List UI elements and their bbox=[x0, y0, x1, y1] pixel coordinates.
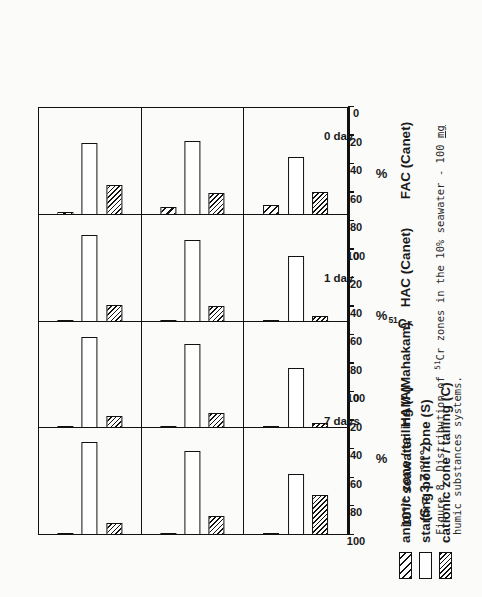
bar-anionic bbox=[160, 427, 176, 428]
panel-1-day-hac-canet bbox=[142, 215, 245, 322]
panel-1-day-ham-mahakam bbox=[142, 321, 245, 428]
axis-tick-label: 60 bbox=[350, 335, 362, 347]
bar-anionic bbox=[263, 533, 279, 534]
bar-anionic bbox=[57, 320, 73, 321]
bar-group bbox=[53, 322, 126, 428]
caption-mid: Cr zones in the 10% seawater - 100 bbox=[434, 138, 446, 360]
bar-cationic bbox=[312, 495, 328, 534]
panel-7-days-hac-canet bbox=[39, 215, 142, 322]
plot-area bbox=[38, 107, 348, 535]
figure-8: anionic zone / tailing (A) starting poin… bbox=[0, 0, 482, 597]
bar-anionic bbox=[263, 205, 279, 215]
bar-group bbox=[53, 216, 126, 322]
bar-cationic bbox=[312, 316, 328, 321]
column-label-line1: HAM (Mahakam) bbox=[398, 322, 413, 427]
axis-tick-label: 60 bbox=[350, 193, 362, 205]
bar-anionic bbox=[160, 533, 176, 534]
column-label-line1: 10°/° seawater bbox=[398, 436, 416, 527]
axis-title-percent: % bbox=[376, 165, 388, 180]
column-label-line1: HAC (Canet) bbox=[398, 228, 413, 308]
bar-starting-point bbox=[184, 451, 200, 534]
axis-tick-label: 40 bbox=[350, 164, 362, 176]
bar-group bbox=[259, 429, 333, 535]
panel-7-days-fac-canet bbox=[39, 108, 142, 215]
bar-starting-point bbox=[184, 344, 200, 427]
bar-anionic bbox=[263, 426, 279, 427]
axis-tick-label: 80 bbox=[350, 221, 362, 233]
bar-group bbox=[259, 108, 333, 215]
bar-cationic bbox=[209, 413, 225, 428]
bar-starting-point bbox=[288, 157, 304, 215]
bar-cationic bbox=[209, 193, 225, 214]
bar-starting-point bbox=[184, 141, 200, 215]
figure-caption: Figure 8. Distribution of 51Cr zones in … bbox=[432, 105, 466, 535]
bar-group bbox=[259, 322, 333, 428]
bar-anionic bbox=[57, 212, 73, 214]
bar-cationic bbox=[106, 416, 122, 428]
bar-group bbox=[156, 429, 229, 535]
column-label-10-seawater: 10°/° seawater(S = 3.7 °/°° ) bbox=[398, 436, 434, 527]
panel-0-day-ham-mahakam bbox=[244, 321, 347, 428]
bar-cationic bbox=[106, 185, 122, 215]
caption-prefix: Figure 8. Distribution of bbox=[434, 370, 446, 535]
bar-cationic bbox=[209, 516, 225, 534]
legend-swatch-starting-point-icon bbox=[419, 552, 432, 579]
column-label-fac-canet-: FAC (Canet) bbox=[398, 122, 413, 199]
axis-title-percent: % bbox=[376, 308, 388, 323]
panel-1-day-fac-canet bbox=[142, 108, 245, 215]
bar-starting-point bbox=[82, 143, 98, 214]
bar-starting-point bbox=[288, 368, 304, 427]
axis-tick-label: 0 bbox=[353, 107, 359, 119]
cr-base: Cr bbox=[398, 317, 412, 331]
panel-grid bbox=[38, 107, 348, 535]
axis-tick-label: 40 bbox=[350, 307, 362, 319]
panel-0-day-hac-canet bbox=[244, 215, 347, 322]
rotated-page-wrapper: anionic zone / tailing (A) starting poin… bbox=[0, 0, 482, 597]
bar-starting-point bbox=[82, 236, 98, 322]
column-label-hac-canet-: HAC (Canet) bbox=[398, 228, 413, 308]
bar-starting-point bbox=[82, 442, 98, 534]
axis-tick-label: 100 bbox=[347, 392, 365, 404]
axis-tick-label: 100 bbox=[347, 535, 365, 547]
axis-tick-label: 100 bbox=[347, 250, 365, 262]
panel-1-day-10-seawater-s-3-7-o bbox=[142, 428, 245, 535]
axis-tick-label: 40 bbox=[350, 449, 362, 461]
bar-cationic bbox=[106, 305, 122, 321]
bar-group bbox=[259, 216, 333, 322]
bar-anionic bbox=[160, 320, 176, 321]
panel-0-day-10-seawater-s-3-7-o bbox=[244, 428, 347, 535]
bar-group bbox=[156, 108, 229, 215]
panel-7-days-ham-mahakam bbox=[39, 321, 142, 428]
bar-group bbox=[156, 322, 229, 428]
bar-starting-point bbox=[288, 256, 304, 321]
bar-cationic bbox=[209, 306, 225, 321]
axis-tick-label: 80 bbox=[350, 506, 362, 518]
row-label-7-days: 7 days bbox=[324, 415, 360, 427]
bar-cationic bbox=[312, 192, 328, 214]
legend-swatch-cationic-icon bbox=[439, 552, 452, 579]
bar-group bbox=[53, 429, 126, 535]
panel-0-day-fac-canet bbox=[244, 108, 347, 215]
row-label-1-day: 1 day bbox=[324, 272, 353, 284]
axis-title-percent: % bbox=[376, 450, 388, 465]
column-label-ham-mahakam-: HAM (Mahakam) bbox=[398, 322, 413, 427]
bar-anionic bbox=[57, 533, 73, 534]
bar-starting-point bbox=[184, 240, 200, 321]
bar-group bbox=[53, 108, 126, 215]
row-label-0-day: 0 day bbox=[324, 130, 353, 142]
bar-anionic bbox=[57, 427, 73, 428]
caption-superscript: 51 bbox=[433, 360, 442, 369]
caption-suffix: humic substances systems. bbox=[451, 376, 463, 535]
bar-anionic bbox=[263, 320, 279, 321]
bar-cationic bbox=[106, 523, 122, 534]
series-axis-label-51cr: 51Cr bbox=[388, 315, 411, 331]
bar-anionic bbox=[160, 207, 176, 215]
bar-starting-point bbox=[82, 337, 98, 428]
bar-group bbox=[156, 216, 229, 322]
bar-starting-point bbox=[288, 474, 304, 534]
panel-7-days-10-seawater-s-3-7-o bbox=[39, 428, 142, 535]
caption-underlined: mg bbox=[434, 125, 446, 138]
legend-swatch-anionic-icon bbox=[399, 552, 412, 579]
axis-tick-label: 80 bbox=[350, 364, 362, 376]
axis-tick-label: 60 bbox=[350, 478, 362, 490]
